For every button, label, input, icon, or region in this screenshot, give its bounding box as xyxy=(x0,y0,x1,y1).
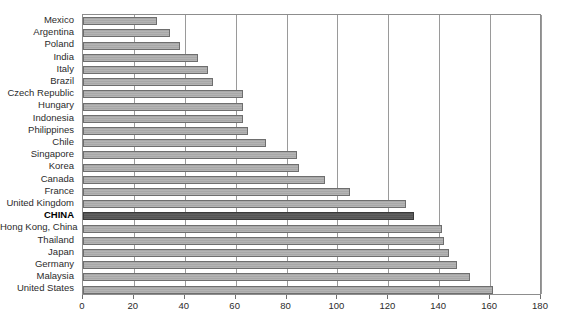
bar-row xyxy=(83,235,540,247)
bar xyxy=(83,273,470,281)
bar xyxy=(83,225,442,233)
x-axis-tick-label: 120 xyxy=(379,300,395,311)
y-axis-label: Malaysia xyxy=(0,270,78,282)
bar xyxy=(83,90,243,98)
bar xyxy=(83,237,444,245)
bar-row xyxy=(83,137,540,149)
x-axis-tick-label: 20 xyxy=(128,300,139,311)
y-axis-label: Hong Kong, China xyxy=(0,221,78,233)
bar-row xyxy=(83,198,540,210)
bar-row xyxy=(83,259,540,271)
bar xyxy=(83,176,325,184)
y-axis-label: CHINA xyxy=(0,209,78,221)
x-axis-tick xyxy=(387,295,388,299)
bar-row xyxy=(83,76,540,88)
bar xyxy=(83,151,297,159)
y-axis-label: India xyxy=(0,51,78,63)
y-axis-label: Hungary xyxy=(0,99,78,111)
bar xyxy=(83,66,208,74)
bar-row xyxy=(83,15,540,27)
bar xyxy=(83,164,299,172)
bar xyxy=(83,115,243,123)
x-axis-tick xyxy=(540,295,541,299)
bar xyxy=(83,200,406,208)
y-axis-label: Canada xyxy=(0,173,78,185)
x-axis-tick-label: 140 xyxy=(430,300,446,311)
bar-row xyxy=(83,64,540,76)
plot-area xyxy=(82,14,541,295)
bar xyxy=(83,54,198,62)
bar-row xyxy=(83,174,540,186)
bar-rows xyxy=(83,15,540,294)
y-axis-label: Japan xyxy=(0,246,78,258)
bar-row xyxy=(83,100,540,112)
bar-row xyxy=(83,210,540,222)
bar xyxy=(83,127,248,135)
y-axis-label: Poland xyxy=(0,38,78,50)
bar xyxy=(83,42,180,50)
bar xyxy=(83,17,157,25)
bar-chart: MexicoArgentinaPolandIndiaItalyBrazilCze… xyxy=(0,0,561,318)
x-axis-tick xyxy=(184,295,185,299)
bar-row xyxy=(83,39,540,51)
bar-row xyxy=(83,125,540,137)
chart-title xyxy=(0,0,561,1)
bar xyxy=(83,188,350,196)
bar-row xyxy=(83,161,540,173)
x-axis-tick xyxy=(82,295,83,299)
x-axis-tick xyxy=(489,295,490,299)
bar-row xyxy=(83,52,540,64)
gridline xyxy=(541,15,542,294)
y-axis-label: United States xyxy=(0,282,78,294)
x-axis-tick-label: 100 xyxy=(329,300,345,311)
x-axis-tick-label: 0 xyxy=(79,300,84,311)
y-axis-label: Mexico xyxy=(0,14,78,26)
x-axis-tick-label: 40 xyxy=(178,300,189,311)
bar-row xyxy=(83,27,540,39)
bar-row xyxy=(83,271,540,283)
x-axis-tick xyxy=(235,295,236,299)
bar-row xyxy=(83,149,540,161)
bar xyxy=(83,261,457,269)
x-axis-tick-label: 60 xyxy=(229,300,240,311)
y-axis-label: Philippines xyxy=(0,124,78,136)
y-axis-label: Singapore xyxy=(0,148,78,160)
bar-row xyxy=(83,186,540,198)
x-axis-tick xyxy=(286,295,287,299)
bar-row xyxy=(83,247,540,259)
y-axis-label: France xyxy=(0,185,78,197)
bar xyxy=(83,139,266,147)
y-axis-label: Chile xyxy=(0,136,78,148)
x-axis: 020406080100120140160180 xyxy=(82,295,542,317)
bar xyxy=(83,29,170,37)
y-axis-label: Brazil xyxy=(0,75,78,87)
y-axis-label: Indonesia xyxy=(0,112,78,124)
y-axis-label: Thailand xyxy=(0,234,78,246)
x-axis-tick xyxy=(336,295,337,299)
bar xyxy=(83,103,243,111)
x-axis-tick-label: 80 xyxy=(280,300,291,311)
y-axis-label: United Kingdom xyxy=(0,197,78,209)
bar xyxy=(83,78,213,86)
y-axis-label: Germany xyxy=(0,258,78,270)
x-axis-tick xyxy=(133,295,134,299)
bar-row xyxy=(83,283,540,295)
x-axis-tick-label: 160 xyxy=(481,300,497,311)
y-axis-label: Argentina xyxy=(0,26,78,38)
y-axis-label: Czech Republic xyxy=(0,87,78,99)
bar xyxy=(83,286,493,294)
x-axis-tick xyxy=(438,295,439,299)
x-axis-tick-label: 180 xyxy=(532,300,548,311)
bar-row xyxy=(83,113,540,125)
bar xyxy=(83,212,414,220)
y-axis-label: Italy xyxy=(0,63,78,75)
y-axis-category-labels: MexicoArgentinaPolandIndiaItalyBrazilCze… xyxy=(0,14,78,295)
y-axis-label: Korea xyxy=(0,160,78,172)
bar-row xyxy=(83,88,540,100)
bar-row xyxy=(83,222,540,234)
bar xyxy=(83,249,449,257)
